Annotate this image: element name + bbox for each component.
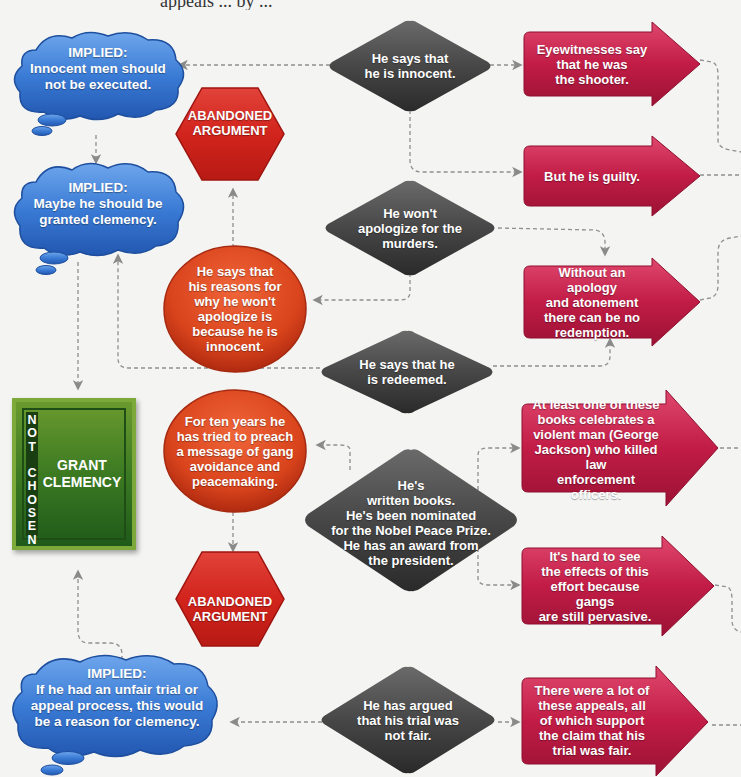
claim-says-innocent: He says that he is innocent.: [326, 18, 494, 114]
abandoned-argument-1: ABANDONED ARGUMENT: [174, 86, 286, 182]
decision-box-grant-clemency: N O T C H O S E N GRANT CLEMENCY: [12, 398, 136, 550]
claim-wont-apologize: He won't apologize for the murders.: [322, 178, 498, 278]
cloud-heading: IMPLIED:: [68, 45, 127, 60]
cloud-heading: IMPLIED:: [68, 180, 127, 195]
rebuttal-no-redemption: Without an apology and atonement there c…: [522, 256, 702, 348]
not-chosen-badge: N O T C H O S E N: [26, 412, 38, 536]
cloud-text: Innocent men should not be executed.: [30, 61, 166, 92]
rebuttal-but-guilty: But he is guilty.: [522, 134, 702, 218]
implied-cloud-unfair-trial: IMPLIED:If he had an unfair trial or app…: [6, 648, 228, 777]
response-innocent-reason: He says that his reasons for why he won'…: [162, 244, 308, 374]
response-gang-avoidance: For ten years he has tried to preach a m…: [162, 388, 308, 514]
cloud-text: If he had an unfair trial or appeal proc…: [31, 682, 204, 729]
rebuttal-gangs-pervasive: It's hard to see the effects of this eff…: [520, 534, 716, 638]
cut-off-heading: appeals ... by ...: [0, 0, 741, 10]
rebuttal-george-jackson: At least one of these books celebrates a…: [520, 388, 720, 510]
implied-cloud-innocent-men: IMPLIED:Innocent men should not be execu…: [8, 28, 188, 136]
implied-cloud-clemency: IMPLIED:Maybe he should be granted cleme…: [8, 158, 188, 276]
claim-books-nominations: He's written books. He's been nominated …: [300, 446, 522, 594]
claim-says-redeemed: He says that he is redeemed.: [318, 328, 496, 416]
abandoned-argument-2: ABANDONED ARGUMENT: [174, 550, 286, 648]
rebuttal-appeals-fair: There were a lot of these appeals, all o…: [520, 664, 710, 776]
cloud-text: Maybe he should be granted clemency.: [33, 196, 162, 227]
claim-trial-not-fair: He has argued that his trial was not fai…: [318, 664, 498, 776]
decision-title: GRANT CLEMENCY: [40, 410, 124, 538]
clemency-argument-diagram: appeals ... by ...: [0, 0, 741, 777]
rebuttal-eyewitnesses: Eyewitnesses say that he was the shooter…: [522, 20, 702, 108]
cloud-heading: IMPLIED:: [87, 666, 146, 681]
